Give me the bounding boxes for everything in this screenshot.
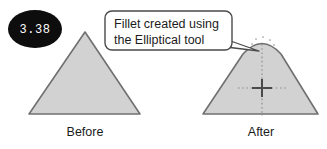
callout-line-2: the Elliptical tool bbox=[114, 33, 204, 47]
after-caption: After bbox=[248, 125, 274, 139]
figure-container: Fillet created using the Elliptical tool… bbox=[0, 0, 327, 149]
after-filleted-triangle-shape bbox=[203, 44, 318, 115]
figure-canvas: Fillet created using the Elliptical tool… bbox=[0, 0, 327, 149]
callout-line-1: Fillet created using bbox=[114, 17, 219, 31]
before-caption: Before bbox=[67, 125, 104, 139]
figure-number-label: 3.38 bbox=[20, 23, 51, 37]
